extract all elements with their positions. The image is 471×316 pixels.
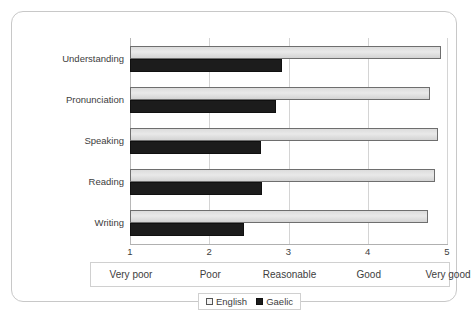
bar-group (130, 128, 447, 154)
category-label-speaking: Speaking (14, 135, 124, 146)
scale-band-very-poor: Very poor (86, 263, 176, 286)
bar-group (130, 87, 447, 113)
x-axis-tick-labels: 12345 (130, 246, 447, 260)
plot-area (130, 38, 447, 244)
tick-label-2: 2 (197, 246, 221, 257)
bar-gaelic-writing[interactable] (130, 223, 244, 236)
x-axis-line (130, 244, 448, 245)
scale-band-reasonable: Reasonable (245, 263, 335, 286)
category-label-writing: Writing (14, 217, 124, 228)
scale-band-box: Very poorPoorReasonableGoodVery good (90, 262, 450, 287)
scale-band-poor: Poor (165, 263, 255, 286)
chart-frame: UnderstandingPronunciationSpeakingReadin… (11, 11, 457, 302)
category-axis-labels: UnderstandingPronunciationSpeakingReadin… (12, 38, 124, 244)
bar-english-pronunciation[interactable] (130, 87, 430, 100)
tick-label-4: 4 (356, 246, 380, 257)
category-label-understanding: Understanding (14, 53, 124, 64)
bar-english-reading[interactable] (130, 169, 435, 182)
tick-label-1: 1 (118, 246, 142, 257)
scale-band-good: Good (324, 263, 414, 286)
bar-group (130, 169, 447, 195)
bar-group (130, 46, 447, 72)
bar-gaelic-understanding[interactable] (130, 59, 282, 72)
bar-english-speaking[interactable] (130, 128, 438, 141)
bar-gaelic-speaking[interactable] (130, 141, 261, 154)
legend-label-gaelic: Gaelic (266, 296, 293, 307)
bar-gaelic-pronunciation[interactable] (130, 100, 276, 113)
scale-band-very-good: Very good (403, 263, 471, 286)
bar-english-writing[interactable] (130, 210, 428, 223)
chart-legend: EnglishGaelic (198, 293, 301, 310)
category-label-pronunciation: Pronunciation (14, 94, 124, 105)
bar-gaelic-reading[interactable] (130, 182, 262, 195)
legend-swatch-icon-english (206, 298, 213, 305)
gridline-5 (447, 38, 448, 244)
tick-label-3: 3 (277, 246, 301, 257)
legend-label-english: English (216, 296, 247, 307)
legend-entry-english[interactable]: English (206, 296, 247, 307)
tick-label-5: 5 (435, 246, 459, 257)
category-label-reading: Reading (14, 176, 124, 187)
bar-english-understanding[interactable] (130, 46, 441, 59)
bar-group (130, 210, 447, 236)
legend-swatch-icon-gaelic (256, 298, 263, 305)
legend-entry-gaelic[interactable]: Gaelic (256, 296, 293, 307)
